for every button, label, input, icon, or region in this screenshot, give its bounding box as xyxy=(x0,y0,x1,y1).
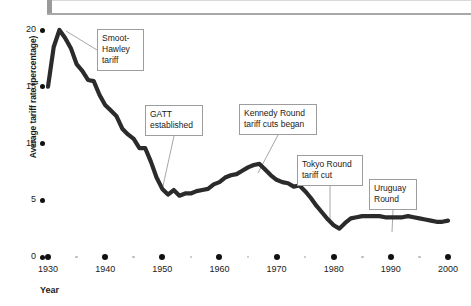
y-tick-dot xyxy=(40,141,45,146)
x-tick-dot xyxy=(445,254,451,260)
x-tick-label: 1980 xyxy=(314,264,354,274)
x-tick-label: 1930 xyxy=(28,264,68,274)
y-tick-dot xyxy=(40,198,45,203)
x-tick-dot-minor xyxy=(418,256,421,259)
x-tick-dot xyxy=(274,254,280,260)
plot-area xyxy=(0,0,471,306)
annotation-gatt-established: GATT established xyxy=(145,105,203,136)
annotation-smoot-hawley: Smoot- Hawley tariff xyxy=(97,29,144,71)
x-tick-dot-minor xyxy=(75,256,78,259)
x-tick-label: 1970 xyxy=(257,264,297,274)
x-tick-label: 1960 xyxy=(199,264,239,274)
x-tick-label: 1990 xyxy=(371,264,411,274)
x-tick-dot xyxy=(331,254,337,260)
x-tick-label: 1940 xyxy=(85,264,125,274)
annotation-uruguay-round: Uruguay Round xyxy=(369,179,417,210)
x-tick-label: 1950 xyxy=(142,264,182,274)
y-tick-dot xyxy=(40,28,45,33)
x-tick-dot xyxy=(45,254,51,260)
y-tick-label: 15 xyxy=(14,81,36,91)
tariff-rate-line-chart: Average tariff rate (percentage) Year 05… xyxy=(0,0,471,306)
annotation-kennedy-round: Kennedy Round tariff cuts began xyxy=(239,104,317,135)
y-tick-label: 5 xyxy=(14,194,36,204)
leader-line-gatt-established xyxy=(163,136,174,186)
x-tick-dot-minor xyxy=(361,256,364,259)
x-tick-dot xyxy=(388,254,394,260)
y-tick-label: 10 xyxy=(14,138,36,148)
annotation-tokyo-round: Tokyo Round tariff cut xyxy=(297,155,363,186)
leader-line-uruguay-round xyxy=(392,210,393,232)
x-tick-label: 2000 xyxy=(428,264,468,274)
y-tick-label: 0 xyxy=(14,251,36,261)
y-tick-label: 20 xyxy=(14,24,36,34)
